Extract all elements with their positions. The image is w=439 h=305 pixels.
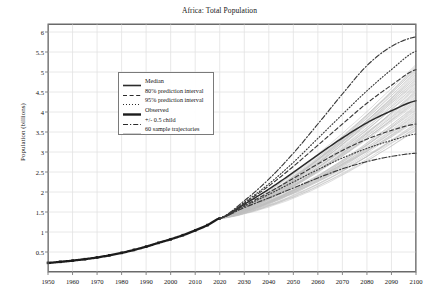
legend-item: +/- 0.5 child	[122, 114, 210, 124]
legend-swatch-icon	[122, 95, 142, 104]
legend-item-label: 60 sample trajectories	[145, 124, 199, 133]
data-point-marker	[71, 259, 74, 262]
figure: Africa: Total Population Population (bil…	[0, 0, 439, 305]
legend-item: 60 sample trajectories	[122, 124, 210, 134]
data-point-marker	[145, 245, 148, 248]
legend-item: Observed	[122, 105, 210, 115]
data-point-marker	[157, 242, 160, 245]
data-point-marker	[96, 256, 99, 259]
data-point-marker	[108, 254, 111, 257]
legend-item-label: 95% prediction interval	[145, 95, 203, 104]
data-point-marker	[194, 229, 197, 232]
data-point-marker	[59, 261, 62, 264]
plot-graphics	[0, 0, 439, 305]
legend-item: Median	[122, 76, 210, 86]
series-line	[48, 218, 220, 263]
legend-item-label: Median	[145, 76, 164, 85]
chart-legend: Median80% prediction interval95% predict…	[118, 72, 214, 135]
data-point-marker	[120, 252, 123, 255]
legend-swatch-icon	[122, 76, 142, 85]
legend-item-label: 80% prediction interval	[145, 86, 203, 95]
data-point-marker	[206, 224, 209, 227]
data-point-marker	[169, 238, 172, 241]
legend-swatch-icon	[122, 86, 142, 95]
legend-item: 95% prediction interval	[122, 95, 210, 105]
legend-item: 80% prediction interval	[122, 86, 210, 96]
legend-swatch-icon	[122, 115, 142, 124]
data-point-marker	[84, 258, 87, 261]
legend-item-label: Observed	[145, 105, 169, 114]
legend-item-label: +/- 0.5 child	[145, 115, 175, 124]
data-point-marker	[133, 249, 136, 252]
legend-swatch-icon	[122, 124, 142, 133]
legend-swatch-icon	[122, 105, 142, 114]
data-point-marker	[182, 234, 185, 237]
